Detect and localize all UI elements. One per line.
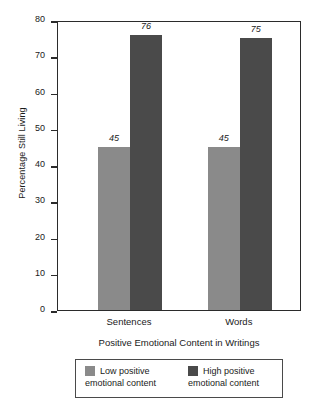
y-axis-title: Percentage Still Living — [17, 73, 27, 233]
bar-value-label: 75 — [251, 24, 261, 34]
y-axis-tick-label: 80 — [35, 14, 45, 24]
bar-value-label: 45 — [219, 133, 229, 143]
legend-label-high-line1: High positive — [203, 366, 255, 376]
x-axis-category-label: Sentences — [107, 316, 152, 327]
y-axis-tick-label: 30 — [35, 195, 45, 205]
legend-label-high-positive: High positive emotional content — [203, 365, 259, 389]
y-axis-tick-label: 40 — [35, 159, 45, 169]
bar: 45 — [98, 147, 130, 310]
bar-value-label: 45 — [109, 133, 119, 143]
legend-label-low-positive: Low positive emotional content — [100, 365, 156, 389]
y-axis-tick-label: 0 — [40, 304, 45, 314]
bar: 45 — [208, 147, 240, 310]
y-axis-tick-label: 60 — [35, 87, 45, 97]
y-axis-tick-label: 20 — [35, 232, 45, 242]
chart-legend: Low positive emotional content High posi… — [75, 359, 283, 398]
x-axis-title: Positive Emotional Content in Writings — [57, 337, 301, 348]
bar-chart-figure: Percentage Still Living 0102030405060708… — [0, 0, 333, 411]
legend-swatch-low-positive — [85, 366, 95, 376]
y-axis-tick-label: 10 — [35, 268, 45, 278]
y-axis-tick-label: 70 — [35, 50, 45, 60]
legend-label-low-line1: Low positive — [100, 366, 150, 376]
legend-item-high-positive: High positive emotional content — [179, 365, 282, 389]
bar: 75 — [240, 38, 272, 310]
x-axis-category-label: Words — [225, 316, 252, 327]
bar: 76 — [130, 35, 162, 311]
plot-area: 45764575 — [57, 21, 301, 311]
legend-swatch-high-positive — [188, 366, 198, 376]
legend-item-low-positive: Low positive emotional content — [76, 365, 179, 389]
legend-label-low-line2: emotional content — [85, 377, 156, 389]
bar-value-label: 76 — [141, 21, 151, 31]
legend-label-high-line2: emotional content — [188, 377, 259, 389]
y-axis-tick-mark — [51, 311, 57, 313]
y-axis-tick-label: 50 — [35, 123, 45, 133]
